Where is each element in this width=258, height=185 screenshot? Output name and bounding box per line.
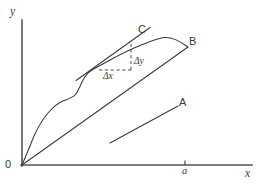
tangent-line-c — [76, 28, 150, 81]
x-tick-label-a: a — [182, 166, 187, 177]
delta-y-label: Δy — [134, 57, 144, 67]
x-axis-label: x — [245, 168, 250, 180]
tangent-label-c: C — [138, 24, 146, 35]
s-curve-ob — [22, 37, 188, 165]
diagram-svg — [0, 0, 258, 185]
delta-x-label: Δx — [103, 72, 113, 82]
origin-label: 0 — [5, 159, 11, 170]
y-axis-label: y — [10, 6, 15, 18]
point-label-b: B — [189, 36, 196, 47]
line-label-a: A — [179, 97, 186, 108]
figure-canvas: y x 0 a B A C Δx Δy — [0, 0, 258, 185]
segment-line-a — [110, 106, 178, 143]
chord-line-ob — [22, 47, 188, 165]
